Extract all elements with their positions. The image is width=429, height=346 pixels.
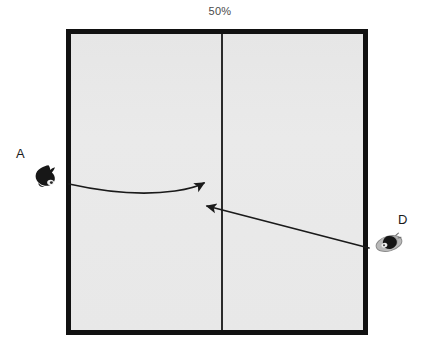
marker-a-label: A <box>16 146 25 161</box>
center-divider-line <box>221 34 223 330</box>
cat-silhouette-icon <box>32 163 60 189</box>
percentage-caption: 50% <box>180 5 260 17</box>
enclosure-box <box>66 29 368 335</box>
enclosure-interior <box>71 34 363 330</box>
marker-d-label: D <box>398 212 407 227</box>
scene-canvas: 50% A D <box>0 0 429 346</box>
marker-a: A <box>14 146 66 198</box>
marker-d: D <box>370 212 422 262</box>
beetle-silhouette-icon <box>374 230 404 256</box>
